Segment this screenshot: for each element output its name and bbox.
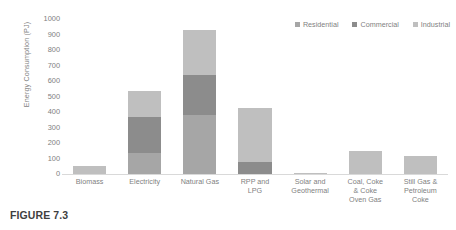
- bar-slot: [393, 19, 448, 174]
- x-tick-label: Coal, Coke& CokeOven Gas: [338, 177, 393, 205]
- y-tick-label: 200: [24, 139, 60, 147]
- y-tick-label: 600: [24, 77, 60, 85]
- bar-segment[interactable]: [183, 115, 216, 174]
- x-tick-label: Electricity: [117, 177, 172, 205]
- bar-stack[interactable]: [404, 156, 437, 174]
- bar-slot: [117, 19, 172, 174]
- bar-segment[interactable]: [238, 108, 271, 162]
- bar-segment[interactable]: [128, 91, 161, 117]
- x-axis-tick-labels: BiomassElectricityNatural GasRPP andLPGS…: [62, 177, 448, 205]
- x-tick-label: Natural Gas: [172, 177, 227, 205]
- y-tick-label: 800: [24, 46, 60, 54]
- y-tick-label: 700: [24, 62, 60, 70]
- bar-slot: [172, 19, 227, 174]
- x-tick-label: Solar andGeothermal: [283, 177, 338, 205]
- bar-stack[interactable]: [294, 173, 327, 174]
- x-tick-label: Still Gas &PetroleumCoke: [393, 177, 448, 205]
- figure-caption: FIGURE 7.3: [10, 209, 68, 221]
- chart-canvas: Energy Consumption (PJ) 0100200300400500…: [0, 0, 456, 205]
- bar-slot: [227, 19, 282, 174]
- y-axis-tick-labels: 01002003004005006007008009001000: [24, 14, 60, 179]
- y-tick-label: 500: [24, 93, 60, 101]
- bar-stack[interactable]: [128, 91, 161, 174]
- y-tick-label: 1000: [24, 15, 60, 23]
- bar-segment[interactable]: [128, 153, 161, 174]
- y-tick-label: 900: [24, 31, 60, 39]
- bar-slot: [62, 19, 117, 174]
- bar-segment[interactable]: [73, 166, 106, 174]
- y-tick-label: 300: [24, 124, 60, 132]
- bar-stack[interactable]: [73, 166, 106, 174]
- bar-stack[interactable]: [238, 108, 271, 174]
- x-tick-label: RPP andLPG: [227, 177, 282, 205]
- y-tick-label: 400: [24, 108, 60, 116]
- bar-segment[interactable]: [183, 75, 216, 115]
- x-axis-line: [62, 174, 448, 175]
- bar-segment[interactable]: [349, 151, 382, 174]
- figure-container: Energy Consumption (PJ) 0100200300400500…: [0, 0, 456, 230]
- bar-stack[interactable]: [183, 30, 216, 174]
- plot-area: [62, 19, 448, 174]
- bar-segment[interactable]: [294, 173, 327, 174]
- y-tick-label: 0: [24, 170, 60, 178]
- y-tick-label: 100: [24, 155, 60, 163]
- bar-segment[interactable]: [128, 117, 161, 153]
- x-tick-label: Biomass: [62, 177, 117, 205]
- bar-segment[interactable]: [183, 30, 216, 75]
- bar-group: [62, 19, 448, 174]
- bar-slot: [338, 19, 393, 174]
- bar-stack[interactable]: [349, 151, 382, 174]
- bar-slot: [283, 19, 338, 174]
- bar-segment[interactable]: [238, 162, 271, 174]
- bar-segment[interactable]: [404, 156, 437, 174]
